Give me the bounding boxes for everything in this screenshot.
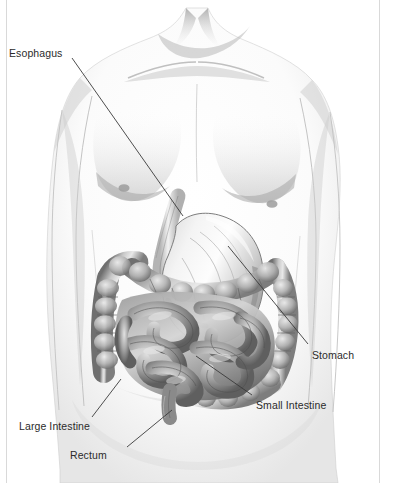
anatomy-illustration — [0, 0, 393, 483]
label-stomach: Stomach — [312, 349, 354, 361]
label-esophagus: Esophagus — [9, 47, 62, 59]
label-large-intestine: Large Intestine — [19, 420, 90, 432]
left-nipple — [119, 184, 130, 192]
right-nipple — [267, 200, 278, 208]
label-small-intestine: Small Intestine — [256, 399, 326, 411]
digestive-system-figure: Esophagus Stomach Small Intestine Large … — [0, 0, 393, 483]
label-rectum: Rectum — [70, 449, 107, 461]
small-intestine-organ — [116, 292, 275, 401]
